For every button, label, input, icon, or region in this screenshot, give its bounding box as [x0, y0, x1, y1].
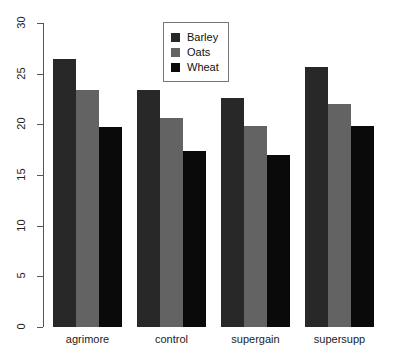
- legend-item: Wheat: [171, 60, 219, 74]
- bar: [244, 126, 267, 327]
- bar: [221, 98, 244, 327]
- y-tick-label: 15: [16, 164, 27, 186]
- x-axis-label: supersupp: [293, 333, 386, 345]
- y-tick-mark: [37, 23, 43, 24]
- bar: [76, 90, 99, 327]
- x-axis-label: agrimore: [41, 333, 134, 345]
- y-tick-label: 10: [16, 214, 27, 236]
- legend-item-label: Barley: [187, 32, 218, 43]
- y-tick-mark: [37, 276, 43, 277]
- y-tick-label: 30: [16, 12, 27, 34]
- y-tick-mark: [37, 226, 43, 227]
- bar: [99, 127, 122, 327]
- y-tick-label: 20: [16, 113, 27, 135]
- y-tick-mark: [37, 74, 43, 75]
- bar: [351, 126, 374, 327]
- bar: [137, 90, 160, 327]
- chart-legend: BarleyOatsWheat: [163, 22, 229, 82]
- bar: [328, 104, 351, 327]
- bar: [267, 155, 290, 327]
- x-axis-label: supergain: [209, 333, 302, 345]
- y-tick-mark: [37, 327, 43, 328]
- bar: [160, 118, 183, 327]
- y-tick-label: 5: [16, 265, 27, 287]
- bar-chart: 051015202530 agrimorecontrolsupergainsup…: [0, 0, 395, 363]
- legend-item: Oats: [171, 45, 219, 59]
- legend-item-label: Oats: [187, 47, 210, 58]
- bar: [53, 59, 76, 327]
- legend-item-label: Wheat: [187, 62, 219, 73]
- bar-group: [305, 23, 374, 327]
- y-tick-mark: [37, 124, 43, 125]
- bar-group: [221, 23, 290, 327]
- bar-group: [53, 23, 122, 327]
- legend-swatch-icon: [171, 33, 180, 42]
- x-axis-label: control: [125, 333, 218, 345]
- y-tick-label: 0: [16, 316, 27, 338]
- y-tick-label: 25: [16, 62, 27, 84]
- y-tick-mark: [37, 175, 43, 176]
- legend-swatch-icon: [171, 48, 180, 57]
- bar: [183, 151, 206, 327]
- legend-item: Barley: [171, 30, 219, 44]
- legend-swatch-icon: [171, 63, 180, 72]
- bar: [305, 67, 328, 327]
